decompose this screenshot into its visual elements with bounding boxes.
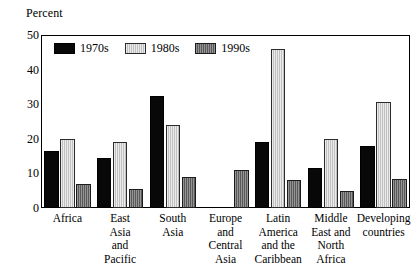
y-tick-label: 10 bbox=[15, 167, 39, 179]
bar-1980s-africa bbox=[60, 139, 75, 208]
legend-item-1980s: 1980s bbox=[125, 42, 180, 54]
x-category-label: Developingcountries bbox=[351, 212, 416, 239]
bar-group bbox=[41, 35, 94, 208]
x-category-line: Developing bbox=[351, 212, 416, 226]
y-tick-label: 30 bbox=[15, 98, 39, 110]
x-category-line: and bbox=[88, 239, 153, 253]
legend-swatch-1980s bbox=[125, 43, 146, 54]
bar-1980s-middle-east-and-north-africa bbox=[324, 139, 339, 208]
bar-1980s-south-asia bbox=[166, 125, 181, 208]
legend-swatch-1990s bbox=[195, 43, 216, 54]
x-category-line: Africa bbox=[299, 253, 364, 267]
bar-1980s-latin-america-and-the-caribbean bbox=[271, 49, 286, 208]
legend-item-1970s: 1970s bbox=[54, 42, 109, 54]
bar-1980s-developing-countries bbox=[376, 102, 391, 208]
bar-1990s-europe-and-central-asia bbox=[234, 170, 249, 208]
bar-1990s-developing-countries bbox=[392, 179, 407, 208]
bar-1990s-south-asia bbox=[182, 177, 197, 208]
x-axis-labels: AfricaEastAsiaandPacificSouthAsiaEuropea… bbox=[41, 212, 410, 278]
bar-1970s-south-asia bbox=[150, 96, 165, 208]
bar-1990s-east-asia-and-pacific bbox=[129, 189, 144, 208]
y-tick-label: 50 bbox=[15, 29, 39, 41]
bar-group bbox=[305, 35, 358, 208]
legend-label-1970s: 1970s bbox=[80, 42, 109, 54]
bar-group bbox=[94, 35, 147, 208]
x-category-line: countries bbox=[351, 226, 416, 240]
legend-item-1990s: 1990s bbox=[195, 42, 250, 54]
bar-group bbox=[199, 35, 252, 208]
legend-swatch-1970s bbox=[54, 43, 75, 54]
bar-chart: Percent 01020304050 1970s1980s1990s Afri… bbox=[0, 0, 418, 280]
x-category-line: North bbox=[299, 239, 364, 253]
bar-1990s-latin-america-and-the-caribbean bbox=[287, 180, 302, 208]
bar-group bbox=[252, 35, 305, 208]
y-axis-title: Percent bbox=[26, 6, 63, 20]
bar-1990s-middle-east-and-north-africa bbox=[340, 191, 355, 208]
bar-group bbox=[357, 35, 410, 208]
bar-1990s-africa bbox=[76, 184, 91, 208]
bar-group bbox=[146, 35, 199, 208]
bar-1980s-east-asia-and-pacific bbox=[113, 142, 128, 208]
bar-1970s-east-asia-and-pacific bbox=[97, 158, 112, 208]
bar-1970s-developing-countries bbox=[360, 146, 375, 208]
bar-1970s-middle-east-and-north-africa bbox=[308, 168, 323, 208]
y-tick-label: 20 bbox=[15, 133, 39, 145]
bar-1970s-latin-america-and-the-caribbean bbox=[255, 142, 270, 208]
y-axis: 01020304050 bbox=[9, 35, 39, 208]
x-category-line: Pacific bbox=[88, 253, 153, 267]
bar-1970s-africa bbox=[44, 151, 59, 208]
y-tick-label: 40 bbox=[15, 64, 39, 76]
chart-legend: 1970s1980s1990s bbox=[52, 41, 253, 55]
legend-label-1990s: 1990s bbox=[221, 42, 250, 54]
bars-layer bbox=[41, 35, 410, 208]
legend-label-1980s: 1980s bbox=[151, 42, 180, 54]
